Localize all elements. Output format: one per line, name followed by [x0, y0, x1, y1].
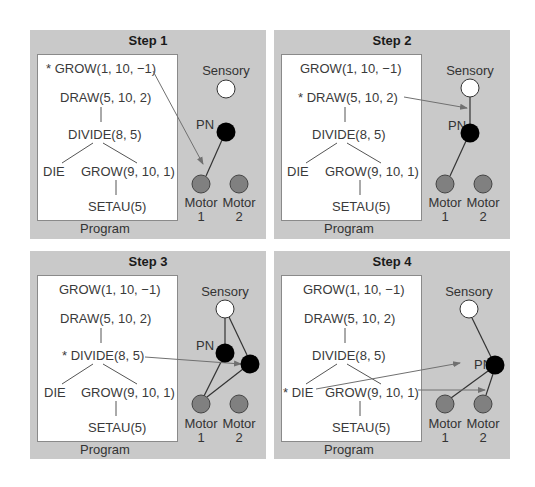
stmt-die: DIE [43, 164, 65, 179]
sensory-label: Sensory [445, 285, 493, 299]
motor-1-label: Motor1 [183, 417, 219, 445]
stmt-grow-1: * GROW(1, 10, −1) [46, 61, 156, 76]
program-box: GROW(1, 10, −1) DRAW(5, 10, 2) DIVIDE(8,… [281, 275, 422, 442]
stmt-grow-1: GROW(1, 10, −1) [59, 282, 161, 297]
sensory-label: Sensory [446, 64, 494, 78]
program-box: GROW(1, 10, −1) * DRAW(5, 10, 2) DIVIDE(… [281, 54, 422, 221]
stmt-setau: SETAU(5) [88, 199, 146, 214]
sensory-label: Sensory [202, 64, 250, 78]
step-title: Step 3 [30, 254, 266, 269]
step-3-panel: Step 3 GROW(1, 10, −1) DRAW(5, 10, 2) * … [30, 251, 266, 459]
motor-1-label: Motor1 [183, 196, 219, 224]
pn-label: PN [196, 339, 214, 353]
stmt-grow-2: GROW(9, 10, 1) [325, 385, 419, 400]
stmt-draw: DRAW(5, 10, 2) [60, 90, 151, 105]
step-title: Step 1 [30, 33, 266, 48]
motor-2-label: Motor2 [221, 196, 257, 224]
program-box: GROW(1, 10, −1) DRAW(5, 10, 2) * DIVIDE(… [37, 275, 178, 442]
motor-2-label: Motor2 [221, 417, 257, 445]
stmt-grow-1: GROW(1, 10, −1) [300, 61, 402, 76]
stmt-grow-1: GROW(1, 10, −1) [303, 282, 405, 297]
program-label: Program [80, 442, 130, 457]
pn-label: PN [474, 358, 492, 372]
step-title: Step 4 [274, 254, 510, 269]
stmt-divide: * DIVIDE(8, 5) [62, 348, 144, 363]
stmt-divide: DIVIDE(8, 5) [312, 348, 386, 363]
stmt-grow-2: GROW(9, 10, 1) [325, 164, 419, 179]
stmt-die: DIE [44, 385, 66, 400]
step-2-panel: Step 2 GROW(1, 10, −1) * DRAW(5, 10, 2) … [274, 30, 510, 239]
stmt-setau: SETAU(5) [332, 420, 390, 435]
sensory-label: Sensory [201, 285, 249, 299]
pn-label: PN [196, 118, 214, 132]
stmt-grow-2: GROW(9, 10, 1) [81, 164, 175, 179]
stmt-draw: DRAW(5, 10, 2) [304, 311, 395, 326]
stmt-draw: DRAW(5, 10, 2) [60, 311, 151, 326]
motor-1-label: Motor1 [427, 417, 463, 445]
stmt-draw: * DRAW(5, 10, 2) [298, 90, 398, 105]
stmt-die: DIE [287, 164, 309, 179]
step-1-panel: Step 1 * GROW(1, 10, −1) DRAW(5, 10, 2) … [30, 30, 266, 239]
step-title: Step 2 [274, 33, 510, 48]
program-label: Program [324, 442, 374, 457]
stmt-setau: SETAU(5) [332, 199, 390, 214]
pn-label: PN [448, 119, 466, 133]
stmt-grow-2: GROW(9, 10, 1) [81, 385, 175, 400]
stmt-die: * DIE [283, 385, 313, 400]
motor-2-label: Motor2 [465, 196, 501, 224]
stmt-setau: SETAU(5) [88, 420, 146, 435]
program-label: Program [80, 221, 130, 236]
stmt-divide: DIVIDE(8, 5) [312, 127, 386, 142]
motor-2-label: Motor2 [465, 417, 501, 445]
stmt-divide: DIVIDE(8, 5) [68, 127, 142, 142]
program-box: * GROW(1, 10, −1) DRAW(5, 10, 2) DIVIDE(… [37, 54, 178, 221]
program-label: Program [324, 221, 374, 236]
motor-1-label: Motor1 [427, 196, 463, 224]
step-4-panel: Step 4 GROW(1, 10, −1) DRAW(5, 10, 2) DI… [274, 251, 510, 459]
